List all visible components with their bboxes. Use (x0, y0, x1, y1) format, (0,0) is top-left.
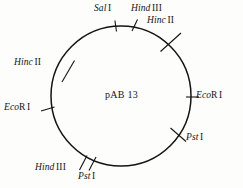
site-label-ecor-i-left: EcoRI (4, 103, 30, 113)
enzyme-numeral-hind-bottom: III (54, 162, 66, 172)
enzyme-name-hinc-left: Hinc (14, 57, 33, 67)
enzyme-name-hind-bottom: Hind (35, 162, 54, 172)
site-label-pst-i-right: PstI (186, 133, 203, 143)
enzyme-numeral-hinc-left: II (33, 57, 41, 67)
site-label-pst-i-bottom: PstI (78, 172, 95, 182)
enzyme-numeral-pst-bottom: I (90, 171, 95, 181)
enzyme-name-pst-bottom: Pst (78, 171, 90, 181)
tick-hinc-ii-upper-right (161, 33, 182, 52)
tick-pst-i-right (171, 128, 187, 142)
enzyme-name-hind-top: Hind (131, 3, 150, 13)
plasmid-name-label: pAB 13 (0, 89, 243, 100)
plasmid-map-figure: SalI HindIII HincII HincII EcoRI EcoRI P… (0, 0, 243, 188)
site-label-hinc-ii-upper-right: HincII (147, 16, 174, 26)
enzyme-suffix-eco-left: R (19, 102, 25, 112)
site-label-hind-iii-bottom: HindIII (35, 163, 66, 173)
enzyme-name-eco-left: Eco (4, 102, 19, 112)
site-label-hind-iii-top: HindIII (131, 4, 162, 14)
enzyme-numeral-hind-top: III (150, 3, 162, 13)
enzyme-name-hinc-ur: Hinc (147, 15, 166, 25)
enzyme-name-sal: Sal (94, 3, 106, 13)
site-label-hinc-ii-left: HincII (14, 58, 41, 68)
tick-hind-iii-top (132, 20, 138, 32)
tick-hind-iii-bottom (80, 156, 88, 171)
enzyme-numeral-sal: I (106, 3, 111, 13)
tick-hinc-ii-left (62, 61, 75, 83)
site-label-sal-i: SalI (94, 4, 111, 14)
enzyme-numeral-eco-left: I (26, 102, 31, 112)
enzyme-numeral-pst-right: I (198, 132, 203, 142)
enzyme-numeral-hinc-ur: II (166, 15, 174, 25)
enzyme-name-pst-right: Pst (186, 132, 198, 142)
